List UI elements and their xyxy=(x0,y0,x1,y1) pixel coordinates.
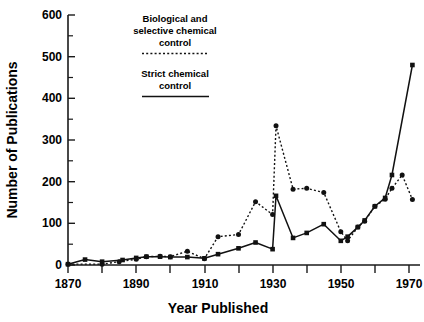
data-point xyxy=(410,63,415,68)
legend-strict-chemical: Strict chemical control xyxy=(141,68,209,97)
data-point xyxy=(304,186,309,191)
data-point xyxy=(216,252,221,257)
data-point xyxy=(400,173,405,178)
legend-biological-line-2: selective chemical xyxy=(133,25,216,36)
legend-strict-line-1: Strict chemical xyxy=(141,68,209,79)
y-axis-ticks xyxy=(68,15,75,265)
legend-biological-line-3: control xyxy=(159,37,191,48)
data-point xyxy=(345,238,350,243)
legend-biological-selective: Biological and selective chemical contro… xyxy=(133,13,216,54)
data-point xyxy=(389,186,394,191)
data-point xyxy=(270,247,275,252)
y-tick-label-300: 300 xyxy=(42,133,62,147)
data-point xyxy=(185,249,190,254)
data-point xyxy=(321,222,326,227)
y-axis-title: Number of Publications xyxy=(4,61,20,218)
y-tick-labels: 600 500 400 300 200 100 0 xyxy=(42,8,62,272)
data-point xyxy=(168,255,173,260)
chart-canvas: 600 500 400 300 200 100 0 1870 1890 1910… xyxy=(0,0,424,322)
data-point xyxy=(236,246,241,251)
data-point xyxy=(216,234,221,239)
x-tick-labels: 1870 1890 1910 1930 1950 1970 xyxy=(55,277,423,291)
data-point xyxy=(304,231,309,236)
data-point xyxy=(253,199,258,204)
data-point xyxy=(362,218,367,223)
y-tick-label-200: 200 xyxy=(42,175,62,189)
data-point xyxy=(274,123,279,128)
data-point xyxy=(291,187,296,192)
data-point xyxy=(356,225,361,230)
data-point xyxy=(134,256,139,261)
x-axis-title: Year Published xyxy=(168,300,268,316)
data-point xyxy=(236,232,241,237)
x-axis-ticks xyxy=(68,265,409,273)
y-tick-label-500: 500 xyxy=(42,50,62,64)
x-tick-label-1930: 1930 xyxy=(260,277,287,291)
data-point xyxy=(253,240,258,245)
x-tick-label-1910: 1910 xyxy=(192,277,219,291)
data-point xyxy=(66,262,71,267)
data-point xyxy=(158,254,163,259)
data-point xyxy=(83,257,88,262)
data-point xyxy=(338,229,343,234)
data-point xyxy=(321,190,326,195)
data-point xyxy=(383,196,388,201)
data-point xyxy=(120,258,125,263)
x-tick-label-1970: 1970 xyxy=(396,277,423,291)
data-point xyxy=(345,234,350,239)
series-layer xyxy=(66,63,415,267)
publications-line-chart: 600 500 400 300 200 100 0 1870 1890 1910… xyxy=(0,0,424,322)
x-tick-label-1870: 1870 xyxy=(55,277,82,291)
y-tick-label-100: 100 xyxy=(42,216,62,230)
data-point xyxy=(202,256,207,261)
data-point xyxy=(274,194,279,199)
series-biological-selective-control xyxy=(66,123,415,266)
x-tick-label-1950: 1950 xyxy=(328,277,355,291)
x-tick-label-1890: 1890 xyxy=(123,277,150,291)
series-line xyxy=(68,126,412,264)
y-tick-label-600: 600 xyxy=(42,8,62,22)
y-tick-label-400: 400 xyxy=(42,91,62,105)
data-point xyxy=(100,259,105,264)
legend-biological-line-1: Biological and xyxy=(143,13,208,24)
y-tick-label-0: 0 xyxy=(55,258,62,272)
data-point xyxy=(291,236,296,241)
data-point xyxy=(373,204,378,209)
data-point xyxy=(339,239,344,244)
data-point xyxy=(410,197,415,202)
data-point xyxy=(185,255,190,260)
data-point xyxy=(144,254,149,259)
legend-strict-line-2: control xyxy=(159,80,191,91)
data-point xyxy=(390,173,395,178)
